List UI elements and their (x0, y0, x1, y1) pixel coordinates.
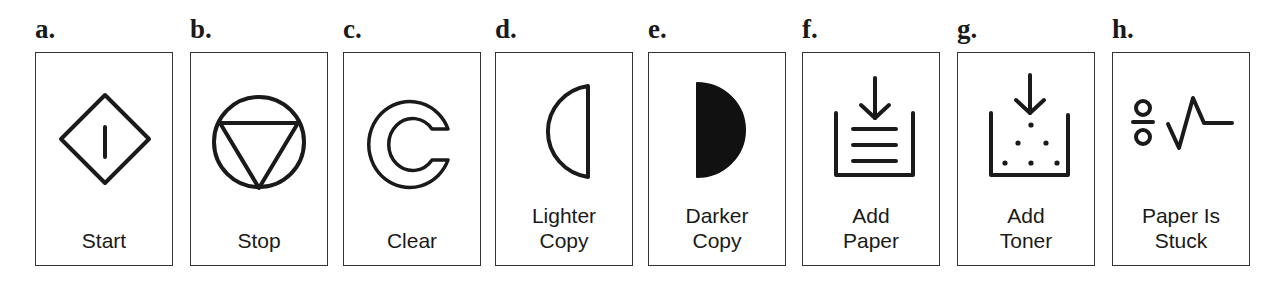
panel-letter: c. (343, 14, 362, 45)
stop-icon (191, 53, 329, 203)
panel-stop: b. Stop (190, 0, 332, 284)
symbol-box-darker-copy: Darker Copy (648, 52, 786, 266)
add-paper-icon (803, 53, 941, 203)
symbol-label: Add Paper (803, 203, 939, 253)
symbol-box-clear: Clear (343, 52, 481, 266)
add-toner-icon (958, 53, 1096, 203)
panel-darker-copy: e. Darker Copy (648, 0, 790, 284)
lighter-copy-icon (496, 53, 634, 203)
paper-jam-icon (1113, 53, 1251, 203)
panel-letter: e. (648, 14, 667, 45)
clear-icon (344, 53, 482, 203)
panel-start: a. Start (35, 0, 177, 284)
panel-letter: a. (35, 14, 55, 45)
symbol-box-paper-jam: Paper Is Stuck (1112, 52, 1250, 266)
darker-copy-icon (649, 53, 787, 203)
symbol-label: Stop (191, 228, 327, 253)
panel-letter: b. (190, 14, 212, 45)
panel-lighter-copy: d. Lighter Copy (495, 0, 637, 284)
symbol-label: Lighter Copy (496, 203, 632, 253)
panel-letter: f. (802, 14, 818, 45)
panel-letter: h. (1112, 14, 1134, 45)
start-icon (36, 53, 174, 203)
symbol-label: Darker Copy (649, 203, 785, 253)
panel-clear: c. Clear (343, 0, 485, 284)
symbol-label: Paper Is Stuck (1113, 203, 1249, 253)
panel-add-paper: f. Add Paper (802, 0, 944, 284)
symbol-label: Start (36, 228, 172, 253)
panel-letter: d. (495, 14, 517, 45)
panel-add-toner: g. Add Toner (957, 0, 1099, 284)
symbol-box-add-paper: Add Paper (802, 52, 940, 266)
symbol-box-lighter-copy: Lighter Copy (495, 52, 633, 266)
panel-letter: g. (957, 14, 977, 45)
panel-paper-jam: h. Paper Is Stuck (1112, 0, 1254, 284)
symbol-box-start: Start (35, 52, 173, 266)
symbol-box-stop: Stop (190, 52, 328, 266)
symbol-label: Clear (344, 228, 480, 253)
symbol-label: Add Toner (958, 203, 1094, 253)
symbol-box-add-toner: Add Toner (957, 52, 1095, 266)
